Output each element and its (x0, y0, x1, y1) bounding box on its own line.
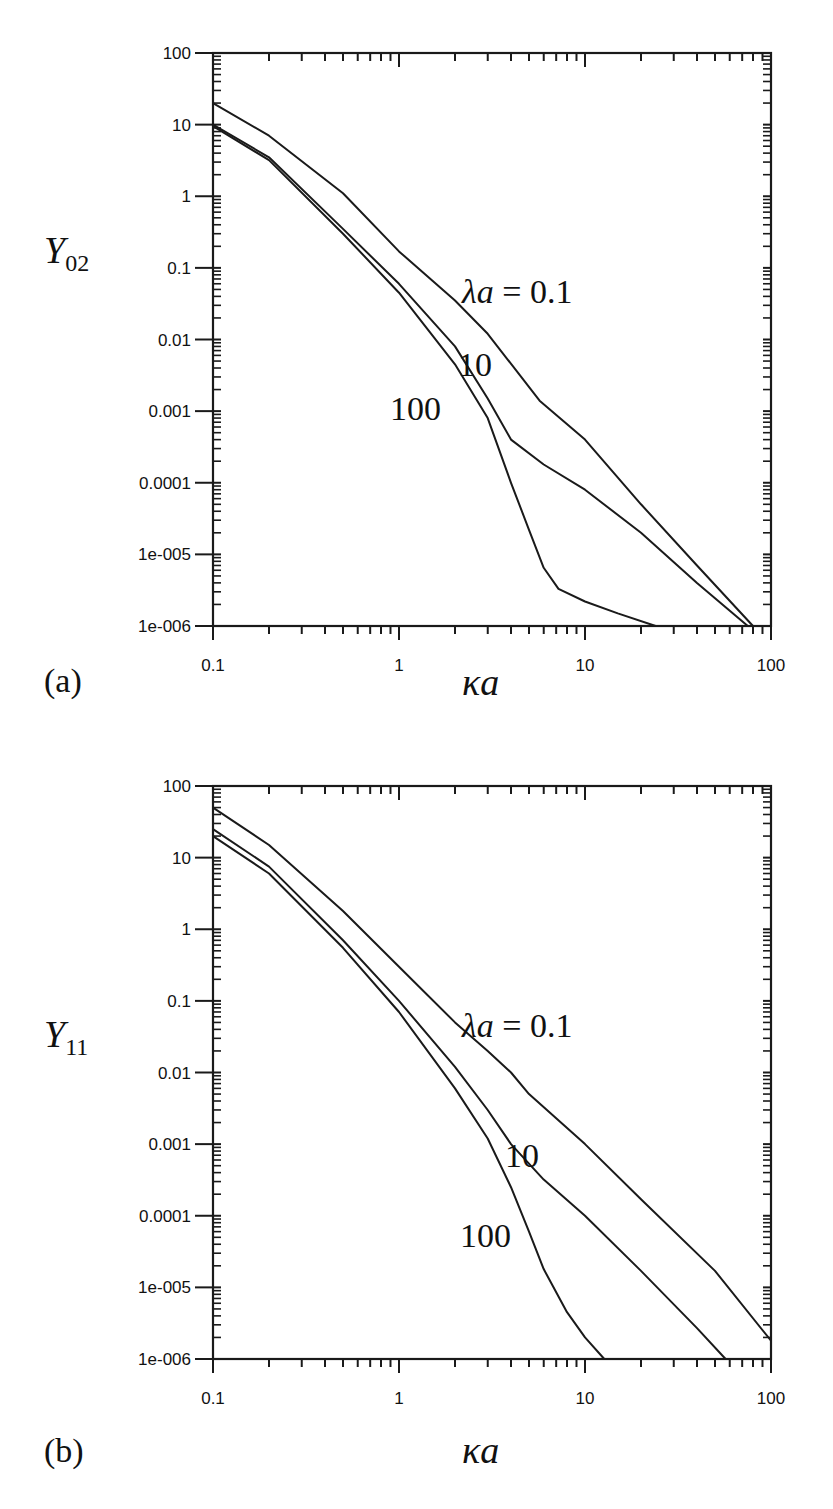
y-tick-label: 0.1 (167, 259, 191, 278)
y-tick-label: 10 (172, 116, 191, 135)
curve-label: 10 (505, 1137, 539, 1174)
x-tick-label: 0.1 (201, 1389, 225, 1408)
curve-label: λa = 0.1 (461, 273, 572, 310)
y-label-subscript: 02 (65, 250, 89, 276)
x-axis-label-b: κa (462, 1428, 499, 1472)
y-tick-label: 1 (182, 920, 191, 939)
x-tick-label: 1 (394, 656, 403, 675)
y-tick-label: 100 (163, 44, 191, 63)
curve-label: 100 (460, 1217, 511, 1254)
y-axis-label-a: Y02 (44, 228, 89, 277)
plot-area-a: 0.11101001001010.10.010.0010.00011e-0051… (0, 0, 833, 740)
curve-label: 10 (458, 346, 492, 383)
plot-frame (213, 786, 771, 1359)
y-tick-label: 10 (172, 849, 191, 868)
x-tick-label: 100 (757, 1389, 785, 1408)
panel-tag-b: (b) (44, 1432, 84, 1470)
y-tick-label: 0.01 (158, 1064, 191, 1083)
y-tick-label: 0.001 (148, 1135, 191, 1154)
curve-label: 100 (390, 390, 441, 427)
data-series-line (213, 829, 726, 1359)
data-series-line (213, 808, 771, 1341)
curve-label: λa = 0.1 (461, 1007, 572, 1044)
data-series-line (213, 836, 604, 1359)
chart-panel-a: 0.11101001001010.10.010.0010.00011e-0051… (0, 0, 833, 740)
axis-ticks (195, 786, 771, 1373)
y-label-main: Y (44, 229, 65, 271)
y-tick-label: 100 (163, 777, 191, 796)
data-series-line (213, 126, 656, 626)
y-tick-label: 0.01 (158, 331, 191, 350)
x-tick-label: 10 (576, 656, 595, 675)
panel-tag-a: (a) (44, 662, 82, 700)
y-tick-label: 1e-005 (138, 1278, 191, 1297)
y-tick-label: 0.0001 (139, 1207, 191, 1226)
y-tick-label: 1e-006 (138, 1350, 191, 1369)
chart-panel-b: 0.11101001001010.10.010.0010.00011e-0051… (0, 735, 833, 1495)
y-tick-label: 0.0001 (139, 474, 191, 493)
y-tick-label: 1 (182, 187, 191, 206)
x-tick-label: 0.1 (201, 656, 225, 675)
y-label-subscript: 11 (65, 1034, 88, 1060)
plot-area-b: 0.11101001001010.10.010.0010.00011e-0051… (0, 735, 833, 1495)
y-tick-label: 0.1 (167, 992, 191, 1011)
y-tick-label: 0.001 (148, 402, 191, 421)
y-tick-label: 1e-005 (138, 545, 191, 564)
x-tick-label: 1 (394, 1389, 403, 1408)
x-axis-label-a: κa (462, 660, 499, 704)
x-tick-label: 10 (576, 1389, 595, 1408)
y-axis-label-b: Y11 (44, 1012, 88, 1061)
y-tick-label: 1e-006 (138, 617, 191, 636)
y-label-main: Y (44, 1013, 65, 1055)
x-tick-label: 100 (757, 656, 785, 675)
